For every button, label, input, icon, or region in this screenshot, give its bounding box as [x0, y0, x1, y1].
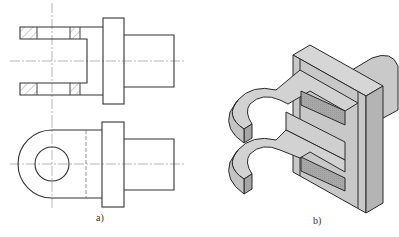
view-a-top-section: [10, 3, 184, 118]
hatch-top-right: [70, 27, 80, 39]
view-b-label: b): [313, 215, 321, 226]
hatch-bottom-left: [20, 83, 37, 95]
hatch-top-left: [20, 27, 37, 39]
view-b-isometric: [229, 45, 398, 213]
shaft-front-view: [124, 139, 174, 190]
view-a-front: [10, 118, 184, 210]
iso-flange-side: [366, 86, 383, 213]
hatch-bottom-right: [70, 83, 80, 95]
technical-drawing: [0, 0, 399, 237]
flange-front-view: [102, 122, 124, 207]
view-a-label: a): [96, 212, 104, 223]
